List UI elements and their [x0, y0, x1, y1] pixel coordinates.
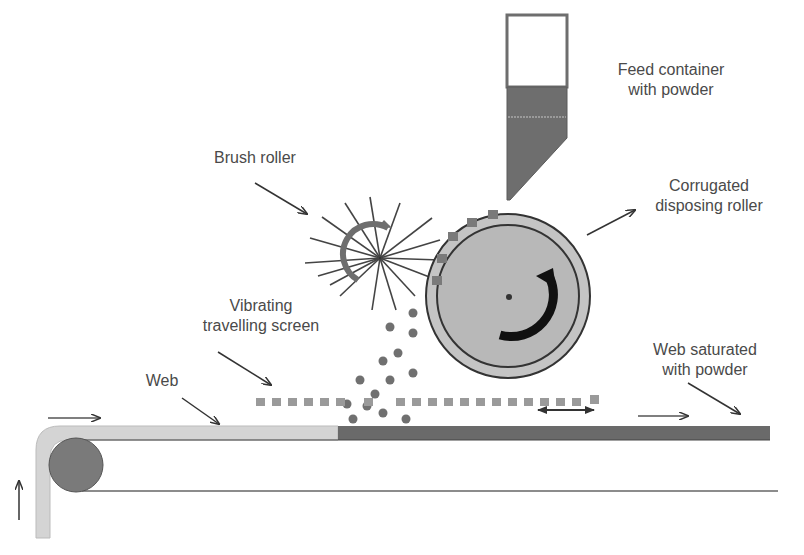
corrugated-disposing-roller: [426, 210, 590, 378]
screen-pointer: [218, 352, 271, 385]
feed-container-label: Feed container with powder: [598, 60, 744, 100]
web-pointer: [182, 398, 219, 424]
feed-container: [507, 15, 567, 200]
web-label: Web: [132, 371, 192, 391]
web-belt: [36, 426, 778, 538]
web-saturated-pointer: [688, 383, 740, 414]
web-saturated-label: Web saturated with powder: [635, 340, 775, 380]
vibrating-travelling-screen: [256, 395, 599, 406]
brush-roller-label: Brush roller: [190, 148, 320, 168]
guide-roller: [49, 438, 103, 492]
brush-roller-pointer: [255, 183, 307, 214]
falling-powder: [343, 309, 418, 424]
brush-roller: [305, 197, 440, 310]
vibrating-screen-label: Vibrating travelling screen: [186, 296, 336, 336]
corrugated-roller-pointer: [587, 210, 635, 235]
corrugated-roller-label: Corrugated disposing roller: [636, 176, 782, 216]
